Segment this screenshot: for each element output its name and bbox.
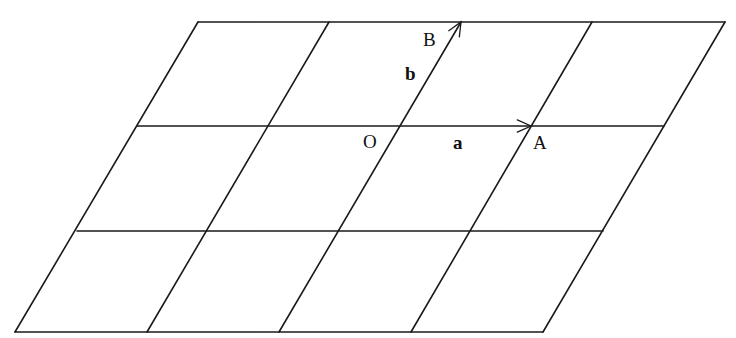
grid-slant-line-2 bbox=[279, 22, 461, 332]
point-label-b-vertex: B bbox=[423, 29, 436, 50]
grid-slant-line-1 bbox=[147, 22, 329, 332]
lattice-diagram: B b O a A bbox=[0, 0, 736, 338]
grid-slant-line-4 bbox=[543, 22, 725, 332]
vector-label-a: a bbox=[453, 132, 463, 153]
point-label-origin: O bbox=[363, 131, 377, 152]
vector-label-b: b bbox=[405, 63, 416, 84]
vector-arrowheads bbox=[449, 22, 531, 132]
grid-slant-line-0 bbox=[15, 22, 198, 332]
parallelogram-grid bbox=[15, 22, 725, 332]
grid-slant-line-3 bbox=[411, 22, 592, 332]
point-label-a-vertex: A bbox=[533, 132, 547, 153]
